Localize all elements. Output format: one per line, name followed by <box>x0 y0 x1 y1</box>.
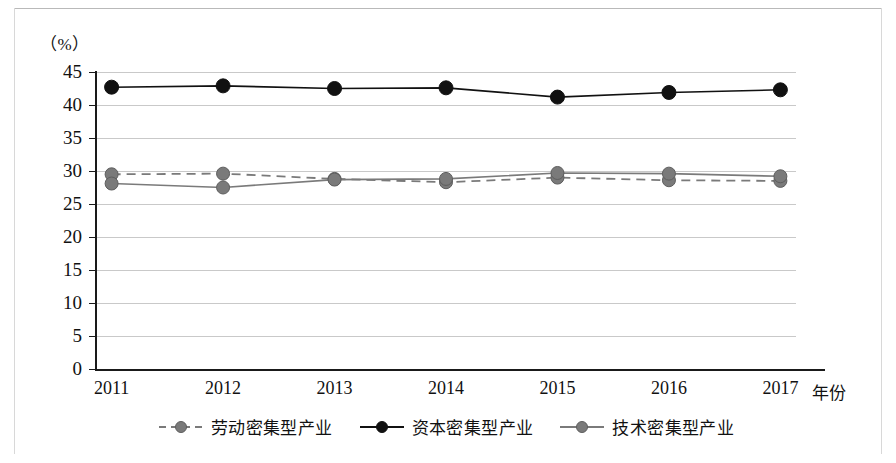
y-axis-tick <box>89 237 96 238</box>
gridline <box>96 105 796 106</box>
y-axis-tick-label: 30 <box>38 161 82 180</box>
x-axis-tick-label: 2017 <box>740 378 820 398</box>
legend-marker-icon <box>158 420 204 434</box>
chart-legend: 劳动密集型产业资本密集型产业技术密集型产业 <box>96 414 796 439</box>
figure-border-top <box>14 8 882 9</box>
x-axis-title: 年份 <box>812 379 846 404</box>
y-axis-tick-label: 20 <box>38 227 82 246</box>
y-axis-tick <box>89 171 96 172</box>
gridline <box>96 171 796 172</box>
gridline <box>96 72 796 73</box>
y-axis-unit-label: （%） <box>40 30 90 55</box>
chart-figure: （%） 051015202530354045 20112012201320142… <box>0 0 896 463</box>
y-axis-tick-label: 35 <box>38 128 82 147</box>
legend-label: 劳动密集型产业 <box>211 414 333 439</box>
y-axis-tick-label: 10 <box>38 293 82 312</box>
y-axis-line <box>95 71 97 370</box>
y-axis-tick <box>89 204 96 205</box>
y-axis-tick-label: 15 <box>38 260 82 279</box>
legend-item[interactable]: 技术密集型产业 <box>559 414 734 439</box>
figure-border-left <box>14 8 15 454</box>
y-axis-tick <box>89 303 96 304</box>
gridline <box>96 237 796 238</box>
y-axis-tick-label: 0 <box>38 359 82 378</box>
plot-area <box>96 72 796 369</box>
x-axis-line <box>95 369 825 371</box>
x-axis-tick-label: 2013 <box>295 378 375 398</box>
y-axis-tick <box>89 138 96 139</box>
figure-border-right <box>881 8 882 454</box>
y-axis-tick-label: 40 <box>38 95 82 114</box>
gridline <box>96 138 796 139</box>
legend-item[interactable]: 劳动密集型产业 <box>158 414 333 439</box>
x-axis-tick-label: 2015 <box>517 378 597 398</box>
legend-marker-icon <box>359 420 405 434</box>
y-axis-tick <box>89 369 96 370</box>
gridline <box>96 204 796 205</box>
x-axis-tick-label: 2012 <box>183 378 263 398</box>
legend-label: 技术密集型产业 <box>612 414 734 439</box>
y-axis-tick <box>89 270 96 271</box>
y-axis-tick-label: 5 <box>38 326 82 345</box>
legend-label: 资本密集型产业 <box>412 414 534 439</box>
y-axis-tick <box>89 336 96 337</box>
legend-marker-icon <box>559 420 605 434</box>
x-axis-tick-label: 2016 <box>629 378 709 398</box>
gridline <box>96 336 796 337</box>
y-axis-tick <box>89 72 96 73</box>
y-axis-tick <box>89 105 96 106</box>
x-axis-tick-label: 2014 <box>406 378 486 398</box>
gridline <box>96 270 796 271</box>
y-axis-tick-label: 25 <box>38 194 82 213</box>
gridline <box>96 303 796 304</box>
y-axis-tick-label: 45 <box>38 62 82 81</box>
x-axis-tick-label: 2011 <box>72 378 152 398</box>
legend-item[interactable]: 资本密集型产业 <box>359 414 534 439</box>
